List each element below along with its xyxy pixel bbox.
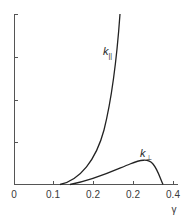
x-tick-label-0: 0: [11, 189, 17, 200]
curve-k-perp: [70, 160, 163, 184]
x-tick-label-1: 0.1: [46, 189, 60, 200]
axes: 0 0.1 0.2 0.2 0.4 γ: [11, 14, 180, 215]
label-k-perp: k⊥: [140, 147, 152, 161]
y-ticks: [15, 15, 19, 143]
curve-k-parallel: [60, 14, 120, 185]
x-tick-label-2: 0.2: [86, 189, 100, 200]
x-tick-label-4: 0.4: [166, 189, 180, 200]
chart: 0 0.1 0.2 0.2 0.4 γ k|| k⊥: [0, 0, 188, 220]
x-tick-label-3: 0.2: [126, 189, 140, 200]
x-axis-title: γ: [172, 204, 177, 215]
label-k-parallel: k||: [103, 45, 112, 60]
